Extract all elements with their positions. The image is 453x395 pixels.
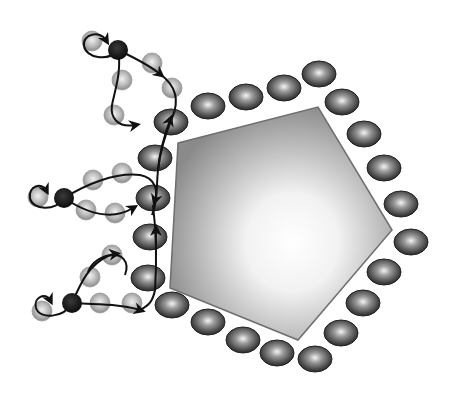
chain-vertical	[140, 205, 156, 310]
ligand-bead	[367, 155, 401, 181]
ligand-bead	[155, 292, 189, 318]
ligand-bead	[298, 346, 332, 372]
ligand-bead	[131, 265, 165, 291]
anchor-bead	[108, 40, 128, 60]
nanoparticle-diagram	[0, 0, 453, 395]
ligand-bead	[229, 84, 263, 110]
ligand-bead	[191, 93, 225, 119]
ligand-bead	[347, 121, 381, 147]
polymer-bead	[112, 70, 132, 90]
ligand-bead	[324, 320, 358, 346]
ligand-bead	[325, 89, 359, 115]
anchor-bead	[54, 188, 74, 208]
ligand-bead	[302, 61, 336, 87]
ligand-bead	[384, 191, 418, 217]
ligand-bead	[260, 340, 294, 366]
ligand-bead	[133, 224, 167, 250]
ligand-bead	[267, 75, 301, 101]
ligand-bead	[191, 309, 225, 335]
polymer-bead	[104, 105, 124, 125]
ligand-bead	[367, 259, 401, 285]
ligand-bead	[394, 229, 428, 255]
polymer-bead	[112, 163, 132, 183]
ligand-bead	[346, 290, 380, 316]
anchor-bead	[62, 293, 82, 313]
diagram-stage	[0, 0, 453, 395]
ligand-bead	[226, 327, 260, 353]
ligand-bead	[138, 145, 172, 171]
